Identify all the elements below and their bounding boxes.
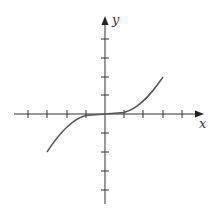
x-axis-label: x <box>199 116 207 131</box>
graph: y x <box>0 0 213 220</box>
y-axis-label: y <box>111 12 120 27</box>
y-axis-arrow-icon <box>102 16 109 25</box>
